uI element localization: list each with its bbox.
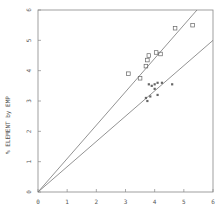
filled-marker [145,97,147,99]
filled-marker [149,95,151,97]
x-axis-ticks: 0123456 [36,189,215,205]
plot-border [38,10,213,192]
y-tick-label: 6 [25,8,32,12]
filled-marker [171,83,173,85]
fit-lines [38,10,213,192]
filled-marker [148,83,150,85]
y-axis-ticks: 0123456 [25,8,41,194]
filled-marker [156,94,158,96]
x-tick-label: 0 [36,198,40,205]
open-square-marker [191,23,195,27]
x-tick-label: 4 [153,198,157,205]
fit-line [38,10,197,192]
open-square-marker [146,58,150,62]
filled-marker [151,85,153,87]
x-tick-label: 3 [124,198,128,205]
fit-line [38,40,213,192]
y-axis-label: % ELEMENT by EMP [4,96,12,154]
filled-marker [154,88,156,90]
y-tick-label: 1 [25,159,32,163]
open-square-marker [127,72,131,76]
open-square-marker [147,54,151,58]
y-tick-label: 0 [25,190,32,194]
open-square-marker [154,51,158,55]
data-points [127,23,195,102]
y-tick-label: 5 [25,38,32,42]
y-tick-label: 4 [25,68,32,72]
scatter-chart: 0123456 0123456 % ELEMENT by EMP [0,0,223,215]
x-tick-label: 2 [95,198,99,205]
filled-marker [154,83,156,85]
x-tick-label: 6 [211,198,215,205]
x-tick-label: 1 [65,198,69,205]
filled-marker [146,100,148,102]
filled-marker [161,82,163,84]
filled-marker [156,82,158,84]
y-tick-label: 2 [25,129,32,133]
x-tick-label: 5 [182,198,186,205]
plot-frame [38,10,213,192]
y-tick-label: 3 [25,99,32,103]
open-square-marker [173,26,177,30]
